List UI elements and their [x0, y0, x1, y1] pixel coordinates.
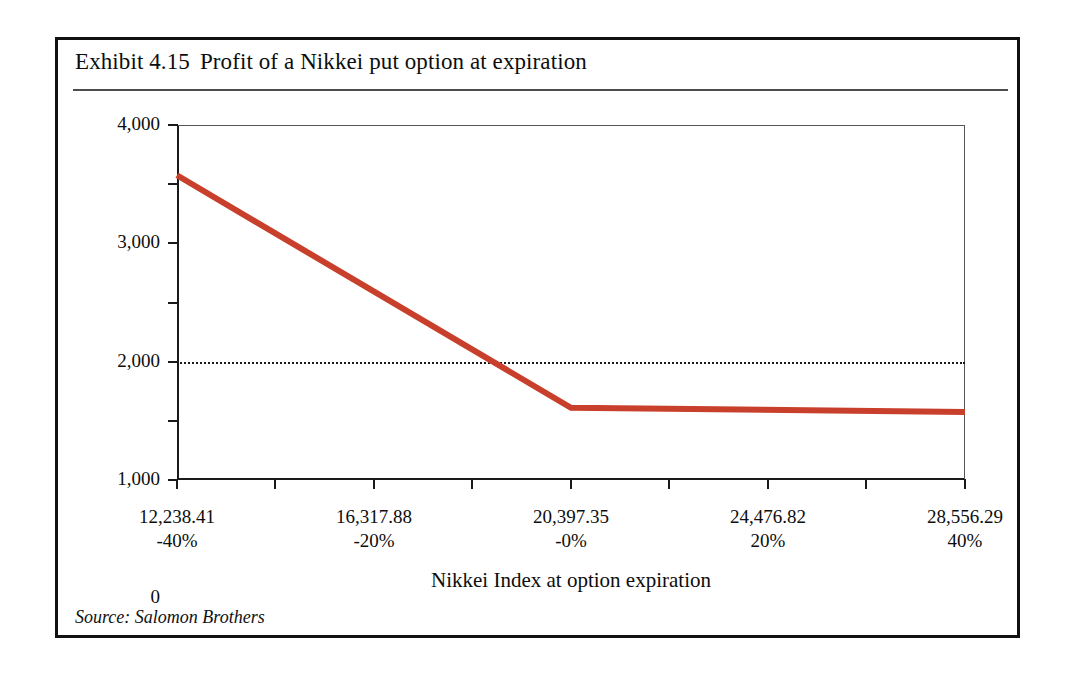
y-axis-tick-label: 2,000	[117, 349, 160, 371]
x-axis-minor-tick	[471, 479, 473, 489]
x-axis-tick-percent: -0%	[533, 529, 609, 553]
plot-area: 4,0003,0002,0001,0000-1,000-2,000 12,238…	[177, 125, 965, 480]
x-axis-minor-tick	[668, 479, 670, 489]
x-axis-title: Nikkei Index at option expiration	[177, 568, 965, 593]
y-axis-tick-label: 0	[151, 586, 161, 608]
x-axis-tick-label: 28,556.2940%	[927, 505, 1003, 553]
x-axis-tick-value: 16,317.88	[336, 506, 412, 527]
source-note: Source: Salomon Brothers	[75, 607, 265, 628]
x-axis-tick-value: 20,397.35	[533, 506, 609, 527]
x-axis-minor-tick	[865, 479, 867, 489]
y-axis-tick-label: 3,000	[117, 231, 160, 253]
x-axis-tick-percent: 40%	[927, 529, 1003, 553]
x-axis-tick: 28,556.2940%	[964, 479, 966, 489]
x-axis-tick: 20,397.35-0%	[570, 479, 572, 489]
x-axis-tick-label: 12,238.41-40%	[139, 505, 215, 553]
x-axis-tick: 16,317.88-20%	[373, 479, 375, 489]
x-axis-tick-value: 24,476.82	[730, 506, 806, 527]
x-axis-tick: 24,476.8220%	[767, 479, 769, 489]
x-axis-tick-label: 24,476.8220%	[730, 505, 806, 553]
profit-line-series	[177, 125, 965, 480]
x-axis-tick-value: 28,556.29	[927, 506, 1003, 527]
x-axis-tick-value: 12,238.41	[139, 506, 215, 527]
x-axis-tick-percent: -40%	[139, 529, 215, 553]
x-axis-tick-percent: 20%	[730, 529, 806, 553]
y-axis-tick-label: 4,000	[117, 113, 160, 135]
chart-canvas: Net profit (mn yen) 4,0003,0002,0001,000…	[58, 40, 1017, 635]
x-axis-minor-tick	[274, 479, 276, 489]
x-axis-tick-label: 20,397.35-0%	[533, 505, 609, 553]
x-axis-tick: 12,238.41-40%	[176, 479, 178, 489]
exhibit-frame: Exhibit 4.15Profit of a Nikkei put optio…	[55, 37, 1020, 638]
y-axis-tick-label: 1,000	[117, 468, 160, 490]
x-axis-tick-label: 16,317.88-20%	[336, 505, 412, 553]
x-axis-tick-percent: -20%	[336, 529, 412, 553]
